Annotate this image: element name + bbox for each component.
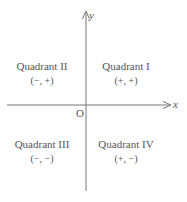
axes-canvas [0,0,187,202]
quadrant-signs: (+, −) [115,153,138,165]
y-axis-label: y [89,9,94,21]
x-axis-label: x [173,98,178,110]
origin-label: O [76,107,84,119]
quadrant-signs: (+, +) [115,75,138,87]
quadrant-name: Quadrant IV [98,138,153,150]
quadrant-signs: (−, −) [31,153,54,165]
quadrant-name: Quadrant III [15,138,70,150]
quadrant-signs: (−, +) [31,75,54,87]
quadrant-name: Quadrant I [102,60,149,72]
quadrant-name: Quadrant II [16,60,67,72]
